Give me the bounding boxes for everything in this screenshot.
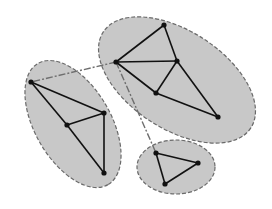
node-c2 <box>195 160 200 165</box>
clustered-graph-diagram <box>0 0 272 209</box>
edge-a1-a3 <box>116 61 177 62</box>
node-b2 <box>101 110 106 115</box>
node-b1 <box>28 79 33 84</box>
node-a2 <box>161 22 166 27</box>
node-c3 <box>162 181 167 186</box>
node-a3 <box>174 58 179 63</box>
node-a1 <box>113 59 118 64</box>
clusters <box>5 0 272 204</box>
node-c1 <box>153 150 158 155</box>
cluster-c <box>137 140 215 194</box>
node-b3 <box>64 122 69 127</box>
node-b4 <box>101 170 106 175</box>
node-a4 <box>153 90 158 95</box>
node-a5 <box>215 114 220 119</box>
